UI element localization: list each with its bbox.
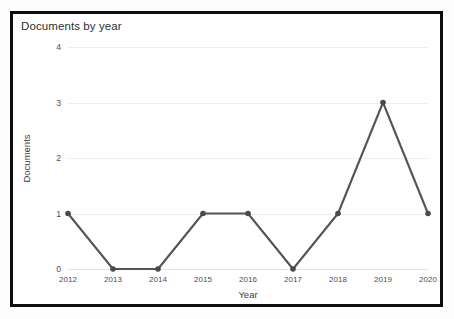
data-point-marker [335, 211, 341, 217]
x-axis-tick-label: 2017 [284, 275, 302, 284]
data-point-marker [245, 211, 251, 217]
x-axis-title: Year [68, 289, 428, 300]
y-axis-tick-label: 4 [56, 42, 61, 52]
data-point-marker [425, 211, 431, 217]
y-axis-tick-label: 3 [56, 98, 61, 108]
data-point-marker [155, 266, 161, 272]
x-axis-tick-label: 2014 [149, 275, 167, 284]
chart-title: Documents by year [21, 20, 122, 32]
data-point-marker [110, 266, 116, 272]
y-axis-title-text: Documents [21, 134, 32, 182]
x-axis-tick-label: 2013 [104, 275, 122, 284]
x-axis-tick-label: 2015 [194, 275, 212, 284]
series-markers [65, 100, 431, 272]
data-point-marker [200, 211, 206, 217]
y-axis-title: Documents [19, 47, 33, 269]
y-axis-tick-label: 0 [56, 264, 61, 274]
chart-canvas: Documents by year Documents 01234 201220… [13, 14, 440, 304]
x-axis-tick-label: 2018 [329, 275, 347, 284]
x-axis-tick-label: 2020 [419, 275, 437, 284]
data-point-marker [65, 211, 71, 217]
chart-frame: Documents by year Documents 01234 201220… [10, 11, 443, 307]
data-point-marker [290, 266, 296, 272]
data-point-marker [380, 100, 386, 106]
y-axis-tick-label: 1 [56, 209, 61, 219]
x-axis-tick-label: 2012 [59, 275, 77, 284]
plot-area: 01234 2012201320142015201620172018201920… [68, 47, 428, 269]
x-axis-tick-label: 2019 [374, 275, 392, 284]
line-series [68, 47, 428, 269]
y-axis-tick-label: 2 [56, 153, 61, 163]
series-polyline [68, 103, 428, 270]
x-axis-tick-label: 2016 [239, 275, 257, 284]
